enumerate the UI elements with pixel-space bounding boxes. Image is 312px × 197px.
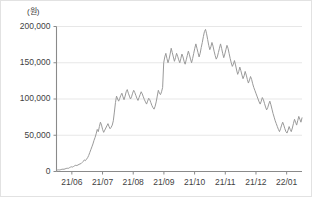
y-tick-label: 150,000	[20, 57, 51, 67]
y-tick-label: 100,000	[20, 93, 51, 103]
x-tick-label: 21/08	[123, 177, 145, 187]
x-axis-tick-labels: 21/0621/0721/0821/0921/1021/1121/1222/01	[61, 177, 297, 187]
axis-tick-marks	[54, 27, 287, 175]
x-tick-label: 21/06	[61, 177, 83, 187]
y-tick-label: 50,000	[25, 130, 51, 140]
y-tick-label: 0	[46, 166, 51, 176]
x-tick-label: 21/11	[215, 177, 236, 187]
x-tick-label: 22/01	[276, 177, 298, 187]
x-tick-label: 21/12	[245, 177, 267, 187]
stock-price-line-chart: (원) 050,000100,000150,000200,000 21/0621…	[0, 0, 312, 197]
chart-plot-area: 050,000100,000150,000200,000 21/0621/072…	[1, 1, 312, 197]
x-tick-label: 21/07	[92, 177, 114, 187]
x-tick-label: 21/09	[153, 177, 175, 187]
y-tick-label: 200,000	[20, 21, 51, 31]
x-tick-label: 21/10	[184, 177, 206, 187]
price-series-line	[57, 29, 303, 170]
y-axis-tick-labels: 050,000100,000150,000200,000	[20, 21, 51, 176]
gridlines	[57, 27, 303, 136]
